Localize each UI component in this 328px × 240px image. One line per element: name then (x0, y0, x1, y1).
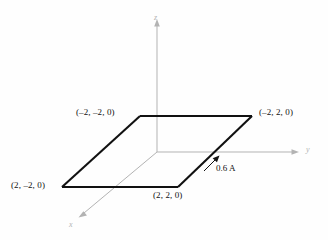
vertex-label-bottom-right: (2, 2, 0) (153, 190, 182, 200)
x-axis-line (84, 152, 157, 213)
vertex-label-top-left: (–2, –2, 0) (76, 107, 115, 117)
current-value-label: 0.6 A (216, 163, 236, 173)
y-axis-label: y (306, 145, 310, 154)
x-axis-arrowhead (79, 211, 88, 217)
vertex-label-top-right: (–2, 2, 0) (259, 107, 293, 117)
physics-figure: (–2, –2, 0) (–2, 2, 0) (2, 2, 0) (2, –2,… (0, 0, 328, 240)
z-axis-label: z (154, 13, 157, 22)
figure-canvas (0, 0, 328, 240)
y-axis-arrowhead (292, 149, 300, 154)
vertex-label-bottom-left: (2, –2, 0) (11, 180, 45, 190)
x-axis-label: x (69, 220, 73, 229)
